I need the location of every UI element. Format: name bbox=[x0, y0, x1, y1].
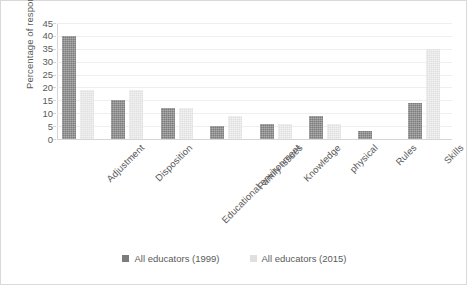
x-axis-labels: AdjustmentDispositionEducational environ… bbox=[57, 142, 452, 237]
y-tick-label: 45 bbox=[7, 19, 53, 28]
legend-label: All educators (2015) bbox=[262, 253, 347, 264]
bar[interactable] bbox=[408, 103, 422, 139]
bar-group bbox=[353, 23, 402, 139]
legend-item[interactable]: All educators (2015) bbox=[250, 253, 347, 264]
y-axis-ticks: 454035302520151050 bbox=[1, 23, 53, 140]
bar[interactable] bbox=[426, 49, 440, 139]
bar[interactable] bbox=[129, 90, 143, 139]
bar-group bbox=[403, 23, 452, 139]
y-tick-label: 35 bbox=[7, 44, 53, 53]
y-tick-label: 40 bbox=[7, 31, 53, 40]
y-tick-label: 5 bbox=[7, 122, 53, 131]
legend-swatch-light-icon bbox=[250, 255, 257, 262]
bar-chart: Percentage of responses 4540353025201510… bbox=[0, 0, 467, 285]
bar-group bbox=[106, 23, 155, 139]
bar[interactable] bbox=[210, 126, 224, 139]
y-tick-label: 20 bbox=[7, 83, 53, 92]
y-tick-mark bbox=[53, 49, 56, 50]
x-axis-label: Knowledge bbox=[301, 142, 343, 184]
y-tick-label: 25 bbox=[7, 70, 53, 79]
bar[interactable] bbox=[161, 108, 175, 139]
x-axis-label: Disposition bbox=[153, 142, 194, 183]
bar-group bbox=[57, 23, 106, 139]
bar[interactable] bbox=[327, 124, 341, 139]
y-tick-mark bbox=[53, 23, 56, 24]
bar-group bbox=[304, 23, 353, 139]
x-axis-label: Skills bbox=[442, 142, 466, 166]
bar[interactable] bbox=[179, 108, 193, 139]
bar[interactable] bbox=[309, 116, 323, 139]
y-tick-mark bbox=[53, 100, 56, 101]
legend-swatch-dark-icon bbox=[122, 255, 129, 262]
bar-group bbox=[205, 23, 254, 139]
bar[interactable] bbox=[260, 124, 274, 139]
bar-group bbox=[255, 23, 304, 139]
chart-legend: All educators (1999) All educators (2015… bbox=[1, 253, 467, 264]
y-tick-mark bbox=[53, 75, 56, 76]
legend-item[interactable]: All educators (1999) bbox=[122, 253, 219, 264]
plot-area bbox=[57, 23, 452, 140]
y-tick-mark bbox=[53, 113, 56, 114]
bar[interactable] bbox=[111, 100, 125, 139]
bar[interactable] bbox=[62, 36, 76, 139]
bar[interactable] bbox=[228, 116, 242, 139]
x-axis-label: Family issues bbox=[255, 142, 304, 191]
y-tick-mark bbox=[53, 87, 56, 88]
y-tick-label: 30 bbox=[7, 57, 53, 66]
x-axis-label: Rules bbox=[393, 142, 418, 167]
y-tick-label: 10 bbox=[7, 109, 53, 118]
y-tick-mark bbox=[53, 36, 56, 37]
x-axis-line bbox=[57, 139, 452, 140]
y-tick-label: 0 bbox=[7, 135, 53, 144]
bar[interactable] bbox=[80, 90, 94, 139]
bar[interactable] bbox=[358, 131, 372, 139]
y-tick-mark bbox=[53, 62, 56, 63]
x-axis-label: Adjustment bbox=[104, 142, 146, 184]
legend-label: All educators (1999) bbox=[134, 253, 219, 264]
y-tick-mark bbox=[53, 126, 56, 127]
bar[interactable] bbox=[278, 124, 292, 139]
bar-group bbox=[156, 23, 205, 139]
x-axis-label: physical bbox=[347, 142, 380, 175]
y-tick-label: 15 bbox=[7, 96, 53, 105]
y-tick-mark bbox=[53, 139, 56, 140]
